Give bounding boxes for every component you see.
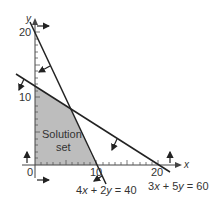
x-axis-label: x <box>183 159 190 170</box>
region-label-line1: Solution <box>42 128 82 140</box>
y-axis-label: y <box>25 13 32 24</box>
x-axis-arrow-icon <box>175 162 182 168</box>
region-label-line2: set <box>56 141 71 153</box>
linear-inequalities-diagram: y x 20 10 0 10 20 Solution set 4x + 2y =… <box>0 0 215 207</box>
arrow-3x5y-left-icon <box>19 79 24 90</box>
tick-label-origin: 0 <box>27 166 33 178</box>
tick-label-x20: 20 <box>151 166 163 178</box>
tick-label-y20: 20 <box>19 26 31 38</box>
equation-4x-2y-40: 4x + 2y = 40 <box>76 184 137 196</box>
equation-3x-5y-60: 3x + 5y = 60 <box>148 180 209 192</box>
tick-label-y10: 10 <box>19 91 31 103</box>
arrow-3x5y-right-icon <box>112 139 117 150</box>
arrow-4x2y-upper-icon <box>39 66 50 72</box>
tick-label-x10: 10 <box>90 166 102 178</box>
y-axis-arrow-icon <box>32 18 38 25</box>
